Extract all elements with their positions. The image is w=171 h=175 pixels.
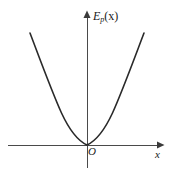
y-axis-label-subscript: p bbox=[100, 15, 104, 24]
potential-energy-figure: Ep(x) O x bbox=[0, 0, 171, 175]
y-axis-label-argument: (x) bbox=[104, 9, 118, 23]
y-axis-arrow-icon bbox=[84, 11, 91, 19]
origin-label: O bbox=[88, 146, 96, 157]
x-axis-label: x bbox=[155, 149, 160, 160]
plot-canvas bbox=[0, 0, 171, 175]
y-axis-label: Ep(x) bbox=[93, 10, 118, 22]
